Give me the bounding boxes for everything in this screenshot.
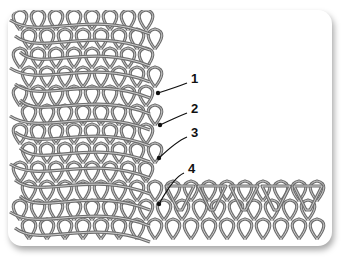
callout-leader-2 — [160, 113, 187, 125]
callout-arrowhead-icon — [156, 91, 160, 95]
knit-stitch-illustration — [8, 10, 332, 246]
callout-arrowhead-icon — [157, 156, 161, 160]
diagram-card: 1234 — [8, 10, 332, 246]
callout-leader-1 — [158, 83, 187, 93]
callout-label-3: 3 — [191, 125, 198, 140]
callout-label-1: 1 — [191, 71, 198, 86]
callout-arrowhead-icon — [158, 123, 162, 127]
fabric-left-region — [10, 10, 324, 242]
callout-arrowhead-icon — [157, 202, 161, 206]
callout-label-2: 2 — [191, 101, 198, 116]
callout-leader-3 — [159, 137, 187, 158]
callout-label-4: 4 — [188, 161, 195, 176]
